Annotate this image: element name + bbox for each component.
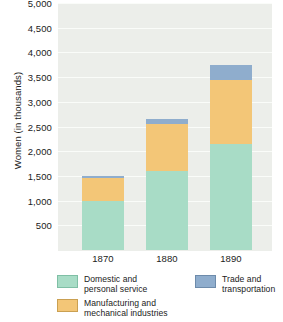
y-axis-tick-label: 4,500 (28, 22, 52, 33)
plot-area (58, 3, 272, 251)
bar-1880[interactable] (146, 119, 188, 250)
y-axis-tick-label: 2,000 (28, 146, 52, 157)
y-axis-tick-label: 2,500 (28, 121, 52, 132)
legend-swatch-icon (195, 275, 216, 288)
legend-label: Manufacturing and mechanical industries (84, 298, 168, 319)
y-axis-tick-label: 4,000 (28, 47, 52, 58)
chart-legend: Domestic and personal serviceManufacturi… (57, 274, 283, 322)
bar-segment[interactable] (82, 201, 124, 250)
legend-label: Trade and transportation (222, 274, 275, 295)
y-axis-tick-label: 1,500 (28, 170, 52, 181)
y-axis-tick-labels: 5,0004,5004,0003,5003,0002,5002,0001,500… (0, 0, 56, 258)
x-axis-tick-labels: 187018801890 (58, 253, 272, 269)
x-axis-tick-label-1880: 1880 (137, 253, 197, 264)
y-axis-tick-label: 500 (36, 220, 52, 231)
y-axis-tick-label: 3,500 (28, 72, 52, 83)
x-axis-tick-label-1890: 1890 (201, 253, 261, 264)
legend-item[interactable]: Manufacturing and mechanical industries (57, 298, 168, 319)
stacked-bar-chart-figure: Women (in thousands) 5,0004,5004,0003,50… (0, 0, 283, 322)
bar-segment[interactable] (210, 144, 252, 250)
bar-segment[interactable] (146, 124, 188, 171)
legend-label: Domestic and personal service (84, 274, 147, 295)
y-axis-tick-label: 5,000 (28, 0, 52, 9)
y-axis-tick-label: 3,000 (28, 96, 52, 107)
bar-1870[interactable] (82, 176, 124, 250)
legend-swatch-icon (57, 275, 78, 288)
legend-swatch-icon (57, 299, 78, 312)
y-axis-tick-label: 1,000 (28, 195, 52, 206)
bar-segment[interactable] (82, 178, 124, 200)
legend-item[interactable]: Domestic and personal service (57, 274, 147, 295)
bar-segment[interactable] (210, 80, 252, 144)
bar-segment[interactable] (210, 65, 252, 80)
x-axis-tick-label-1870: 1870 (73, 253, 133, 264)
bar-1890[interactable] (210, 65, 252, 250)
legend-item[interactable]: Trade and transportation (195, 274, 275, 295)
bars-layer (58, 3, 272, 251)
bar-segment[interactable] (146, 171, 188, 250)
